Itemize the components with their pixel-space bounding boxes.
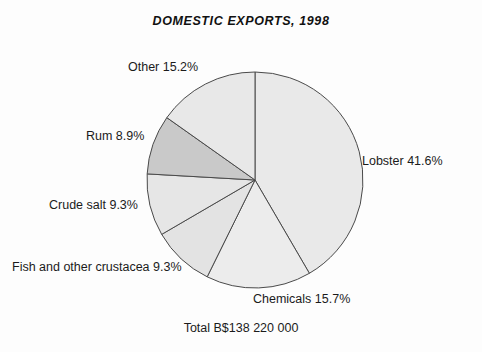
slice-label-lobster: Lobster 41.6% bbox=[362, 155, 443, 169]
slice-label-chemicals: Chemicals 15.7% bbox=[253, 293, 350, 307]
slice-label-fish: Fish and other crustacea 9.3% bbox=[12, 261, 182, 275]
chart-total-caption: Total B$138 220 000 bbox=[0, 321, 482, 335]
slice-label-crude-salt: Crude salt 9.3% bbox=[49, 199, 138, 213]
pie-slices bbox=[147, 72, 363, 288]
slice-label-other: Other 15.2% bbox=[128, 61, 198, 75]
pie-chart-page: DOMESTIC EXPORTS, 1998 Other 15.2% Rum 8… bbox=[0, 0, 482, 352]
pie-chart-graphic bbox=[0, 0, 482, 352]
slice-label-rum: Rum 8.9% bbox=[86, 130, 144, 144]
